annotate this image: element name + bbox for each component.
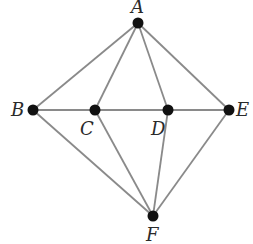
node-a [133,18,144,29]
edge-a-d [138,23,168,110]
edge-a-c [95,23,138,110]
node-e [224,105,235,116]
nodes-group [28,18,235,222]
edges-group [33,23,229,216]
node-label-d: D [150,118,166,139]
node-f [148,211,159,222]
graph-diagram: ABCDEF [0,0,253,244]
node-label-c: C [80,118,94,139]
node-c [90,105,101,116]
node-label-b: B [10,99,24,120]
edge-a-e [138,23,229,110]
node-label-f: F [145,224,160,244]
node-d [163,105,174,116]
edge-a-b [33,23,138,110]
node-b [28,105,39,116]
edge-c-f [95,110,153,216]
node-label-a: A [129,0,144,17]
node-label-e: E [235,99,249,120]
